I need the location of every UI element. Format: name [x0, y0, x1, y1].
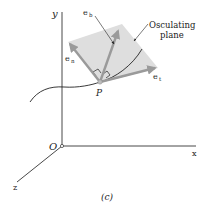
svg-text:e: e — [83, 8, 88, 17]
svg-text:t: t — [159, 76, 162, 82]
binormal-label: e b — [83, 8, 93, 18]
z-axis-label: z — [13, 183, 17, 192]
normal-label: e n — [65, 54, 75, 64]
plane-label-line2: plane — [160, 30, 184, 40]
tangent-label: e t — [153, 72, 162, 82]
y-axis-label: y — [51, 8, 58, 19]
figure-caption: (c) — [101, 192, 114, 202]
osculating-plane-diagram: y x z O P Osculating plane e b e n e t (… — [0, 0, 210, 206]
origin-label: O — [49, 141, 57, 152]
point-p-marker — [98, 80, 102, 84]
svg-text:e: e — [65, 54, 70, 63]
plane-label-line1: Osculating — [149, 20, 196, 30]
point-p-label: P — [95, 88, 103, 98]
plane-leader-line — [134, 24, 148, 41]
x-axis-label: x — [192, 149, 197, 158]
svg-text:b: b — [89, 12, 93, 18]
origin-marker — [60, 144, 63, 147]
osculating-plane — [68, 24, 158, 83]
svg-text:e: e — [153, 72, 158, 81]
svg-text:n: n — [71, 58, 75, 64]
